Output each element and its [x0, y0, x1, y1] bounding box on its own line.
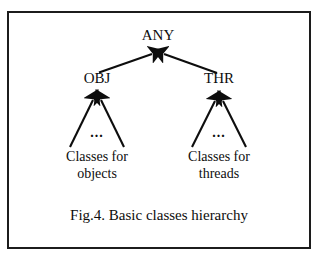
node-label-thr: THR — [194, 70, 244, 86]
figure-caption: Fig.4. Basic classes hierarchy — [7, 205, 311, 225]
edge-threads-right-to-thr — [223, 101, 246, 147]
ellipsis-thr-branch: ... — [199, 128, 239, 138]
edge-threads-left-to-thr — [192, 101, 215, 147]
edge-objects-right-to-obj — [101, 100, 124, 147]
leaf-label-classes-for-objects: Classes for objects — [42, 148, 152, 182]
node-label-any: ANY — [133, 27, 183, 43]
figure-container: ANY OBJ THR ... ... Classes for objects … — [0, 0, 319, 257]
leaf-label-classes-for-threads: Classes for threads — [164, 148, 274, 182]
node-label-obj: OBJ — [72, 70, 122, 86]
ellipsis-obj-branch: ... — [77, 128, 117, 138]
